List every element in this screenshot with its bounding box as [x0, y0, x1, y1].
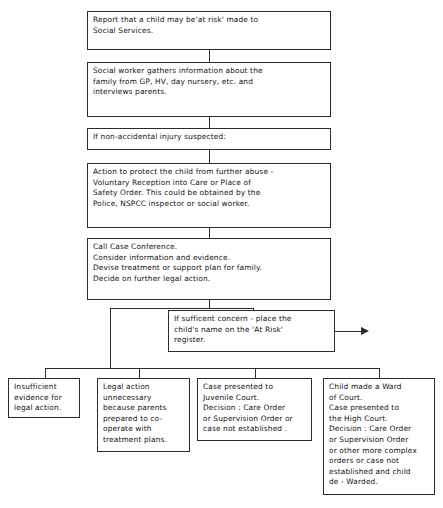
connector-drop-outcome2	[139, 368, 140, 378]
connector-split-bar	[110, 308, 254, 309]
connector-conference-to-split	[209, 300, 210, 308]
ward-of-court-box: Child made a Ward of Court. Case present…	[323, 378, 435, 495]
connector-register-right-arrow	[335, 331, 363, 332]
connector-gather-to-injury	[209, 117, 210, 128]
report-box: Report that a child may be'at risk' made…	[87, 11, 331, 50]
arrow-head-icon	[361, 327, 369, 335]
action-to-protect-box: Action to protect the child from further…	[87, 163, 331, 228]
connector-protect-to-conference	[209, 228, 210, 238]
at-risk-register-box: If sufficent concern - place the child's…	[168, 310, 335, 352]
flowchart-canvas: Report that a child may be'at risk' made…	[0, 0, 443, 508]
legal-action-unnecessary-box: Legal action unnecessary because parents…	[97, 378, 190, 452]
connector-report-to-gather	[209, 50, 210, 62]
connector-split-left-drop	[110, 308, 111, 369]
connector-drop-outcome1	[45, 368, 46, 378]
connector-outcome-distribution-bar	[45, 368, 379, 369]
non-accidental-injury-box: If non-accidental injury suspected:	[87, 128, 331, 150]
connector-drop-outcome3	[255, 368, 256, 378]
social-worker-gathers-box: Social worker gathers information about …	[87, 62, 331, 117]
connector-split-to-register	[253, 308, 254, 311]
insufficient-evidence-box: Insufficient evidence for legal action.	[8, 378, 80, 418]
connector-drop-outcome4	[379, 368, 380, 378]
call-case-conference-box: Call Case Conference. Consider informati…	[87, 238, 331, 300]
connector-injury-to-protect	[209, 150, 210, 163]
juvenile-court-box: Case presented to Juvenile Court. Decisi…	[197, 378, 312, 441]
